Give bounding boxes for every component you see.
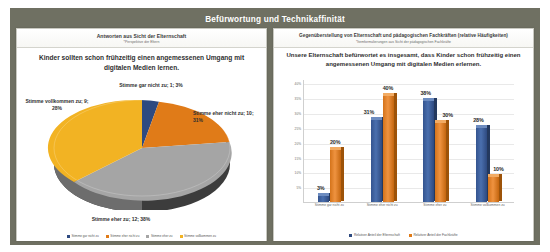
bar-chart-groups: 3% 20% [303, 80, 514, 202]
bar-value-label: 10% [493, 166, 504, 172]
x-tick-label: Stimme eher zu [409, 204, 461, 216]
pie-legend-item[interactable]: Stimme gar nicht zu [67, 234, 99, 238]
bar-value-label: 20% [330, 139, 341, 145]
x-tick-label: Stimme vollkommen zu [462, 204, 514, 216]
y-tick: 30% [295, 112, 301, 116]
legend-swatch-icon [106, 235, 109, 238]
bar-value-label: 31% [364, 109, 375, 115]
x-tick-label: Stimme gar nicht zu [303, 204, 355, 216]
y-tick: 5% [296, 186, 301, 190]
bar-elternschaft[interactable]: 28% [476, 126, 487, 202]
bar-chart-title: Unsere Elternschaft befürwortet es insge… [282, 51, 525, 68]
y-tick: 25% [295, 127, 301, 131]
panels-container: Antworten aus Sicht der Elternschaft *Pe… [16, 28, 534, 241]
y-tick: 15% [295, 157, 301, 161]
left-panel-header: Antworten aus Sicht der Elternschaft *Pe… [17, 29, 266, 48]
bar-value-label: 28% [473, 117, 484, 123]
bar-elternschaft[interactable]: 38% [423, 99, 434, 202]
bar-chart: 40% 35% 30% 25% 20% 15% 10% 5% [286, 80, 514, 215]
bar-legend-label: Relativer Anteil der Elternschaft [354, 233, 400, 237]
left-panel-header-title: Antworten aus Sicht der Elternschaft [22, 33, 261, 39]
right-panel-header: Gegenüberstellung von Elternschaft und p… [274, 29, 533, 48]
y-tick: 20% [295, 142, 301, 146]
pie-chart: Stimme gar nicht zu; 1; 3% Stimme eher n… [17, 48, 266, 241]
y-tick: 35% [295, 97, 301, 101]
bar-value-label: 40% [383, 85, 394, 91]
bar-value-label: 3% [317, 185, 325, 191]
bar-chart-y-axis: 40% 35% 30% 25% 20% 15% 10% 5% [286, 80, 302, 202]
bar-legend-item-fachkraefte[interactable]: Relativer Anteil der Fachkräfte [409, 233, 458, 237]
pie-legend-label: Stimme gar nicht zu [71, 234, 98, 238]
bar-group: 28% 10% [476, 80, 499, 202]
bar-elternschaft[interactable]: 31% [371, 118, 382, 202]
slide-frame: Befürwortung und Technikaffinität Antwor… [10, 8, 540, 245]
pie-legend-item[interactable]: Stimme eher nicht zu [106, 234, 140, 238]
legend-swatch-icon [180, 235, 183, 238]
legend-swatch-icon [409, 234, 412, 237]
bar-chart-x-axis: Stimme gar nicht zu Stimme eher nicht zu… [303, 204, 514, 216]
pie-legend-label: Stimme eher nicht zu [110, 234, 139, 238]
y-tick: 10% [295, 171, 301, 175]
bar-legend-label: Relativer Anteil der Fachkräfte [413, 233, 457, 237]
pie-legend-item[interactable]: Stimme vollkommen zu [180, 234, 216, 238]
pie-legend-label: Stimme eher zu [151, 234, 173, 238]
y-tick: 40% [295, 82, 301, 86]
bar-fachkraefte[interactable]: 30% [435, 121, 446, 202]
pie-label-eher-zu: Stimme eher zu; 12; 38% [79, 216, 163, 223]
left-panel-header-subtitle: *Perspektive der Eltern [22, 40, 261, 44]
pie-label-gar-nicht-zu: Stimme gar nicht zu; 1; 3% [113, 82, 189, 89]
bar-value-label: 38% [420, 90, 431, 96]
bar-group: 31% 40% [371, 80, 394, 202]
legend-swatch-icon [349, 234, 352, 237]
pie-legend-label: Stimme vollkommen zu [184, 234, 216, 238]
pie-legend-item[interactable]: Stimme eher zu [146, 234, 172, 238]
right-panel-header-title: Gegenüberstellung von Elternschaft und p… [279, 33, 528, 39]
bar-group: 38% 30% [423, 80, 446, 202]
legend-swatch-icon [67, 235, 70, 238]
right-panel: Gegenüberstellung von Elternschaft und p… [273, 28, 534, 241]
bar-legend-item-elternschaft[interactable]: Relativer Anteil der Elternschaft [349, 233, 400, 237]
left-panel: Antworten aus Sicht der Elternschaft *Pe… [16, 28, 267, 241]
bar-fachkraefte[interactable]: 40% [383, 94, 394, 202]
left-panel-body: Kinder sollten schon frühzeitig einen an… [17, 48, 266, 241]
slide-title: Befürwortung und Technikaffinität [13, 11, 537, 28]
pie-legend: Stimme gar nicht zu Stimme eher nicht zu… [17, 234, 266, 238]
bar-fachkraefte[interactable]: 20% [330, 148, 341, 202]
x-tick-label: Stimme eher nicht zu [356, 204, 408, 216]
bar-chart-legend: Relativer Anteil der Elternschaft Relati… [274, 233, 533, 237]
bar-group: 3% 20% [318, 80, 341, 202]
right-panel-body: Unsere Elternschaft befürwortet es insge… [274, 48, 533, 241]
pie-label-eher-nicht-zu: Stimme eher nicht zu; 10; 31% [193, 110, 259, 123]
right-panel-header-subtitle: *Itemformulierungen aus Sicht der pädago… [279, 40, 528, 44]
bar-fachkraefte[interactable]: 10% [488, 175, 499, 202]
legend-swatch-icon [146, 235, 149, 238]
pie-label-vollkommen-zu: Stimme vollkommen zu; 9; 28% [23, 98, 91, 111]
bar-elternschaft[interactable]: 3% [318, 194, 329, 202]
bar-value-label: 30% [442, 112, 453, 118]
